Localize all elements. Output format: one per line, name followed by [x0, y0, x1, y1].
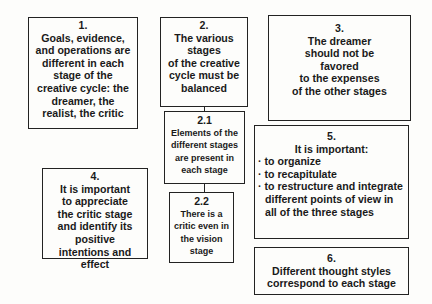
box-2-1-text: Elements of the different stages are pre… — [165, 127, 244, 177]
box-1-number: 1. — [29, 19, 137, 32]
box-2-2: 2.2 There is a critic even in the vision… — [169, 192, 234, 263]
box-5-bullet-2: · to recapitulate — [255, 168, 408, 181]
box-6-text: Different thought styles correspond to e… — [255, 265, 408, 290]
box-2: 2. The various stages of the creative cy… — [160, 17, 248, 107]
box-5-bullet-1: · to organize — [255, 155, 408, 168]
box-3: 3. The dreamer should not be favored to … — [268, 15, 411, 121]
box-6: 6. Different thought styles correspond t… — [254, 247, 409, 295]
box-3-text: The dreamer should not be favored to the… — [269, 35, 410, 98]
box-5-heading: It is important: — [255, 143, 408, 156]
box-2-1: 2.1 Elements of the different stages are… — [164, 111, 245, 184]
box-1: 1. Goals, evidence, and operations are d… — [28, 17, 138, 129]
box-5-number: 5. — [255, 130, 408, 143]
box-2-1-number: 2.1 — [165, 114, 244, 127]
box-3-number: 3. — [269, 22, 410, 35]
box-5-bullet-3: · to restructure and integrate different… — [255, 180, 408, 218]
box-5: 5. It is important: · to organize · to r… — [254, 125, 409, 239]
box-4-text: It is important to appreciate the critic… — [43, 183, 147, 271]
box-2-2-text: There is a critic even in the vision sta… — [170, 208, 233, 258]
box-6-number: 6. — [255, 252, 408, 265]
box-2-2-number: 2.2 — [170, 195, 233, 208]
box-2-number: 2. — [161, 19, 247, 32]
box-1-text: Goals, evidence, and operations are diff… — [29, 32, 137, 120]
box-2-text: The various stages of the creative cycle… — [161, 32, 247, 95]
box-4-number: 4. — [43, 170, 147, 183]
box-4: 4. It is important to appreciate the cri… — [42, 168, 148, 259]
